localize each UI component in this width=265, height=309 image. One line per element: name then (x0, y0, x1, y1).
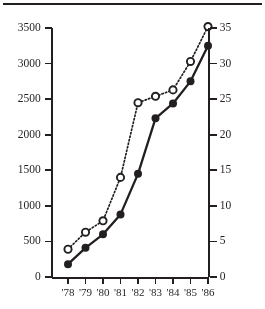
y-axis-left-tick-2000 (45, 134, 52, 136)
y-axis-left-label-3500: 3500 (0, 22, 41, 34)
x-axis-tick-1 (85, 278, 87, 284)
y-axis-right-tick-10 (210, 205, 217, 207)
x-axis-tick-6 (172, 278, 174, 284)
chart-figure: 0500100015002000250030003500051015202530… (0, 0, 265, 309)
plot-canvas (0, 0, 265, 309)
y-axis-right-label-30: 30 (220, 58, 232, 70)
x-axis-tick-2 (102, 278, 104, 284)
y-axis-right-label-0: 0 (220, 271, 226, 283)
x-axis-tick-8 (207, 278, 209, 284)
x-axis-tick-4 (137, 278, 139, 284)
y-axis-right-tick-30 (210, 63, 217, 65)
y-axis-left-tick-3000 (45, 63, 52, 65)
y-axis-right-tick-25 (210, 98, 217, 100)
x-axis-tick-5 (155, 278, 157, 284)
x-axis-line (52, 277, 209, 279)
y-axis-left-label-0: 0 (0, 271, 41, 283)
y-axis-left-tick-1500 (45, 169, 52, 171)
y-axis-left-label-500: 500 (0, 235, 41, 247)
x-axis-tick-7 (190, 278, 192, 284)
x-axis-label-8: '86 (195, 287, 221, 299)
y-axis-right-tick-15 (210, 169, 217, 171)
y-axis-right-label-5: 5 (220, 235, 226, 247)
y-axis-right-label-35: 35 (220, 22, 232, 34)
y-axis-left-label-1500: 1500 (0, 164, 41, 176)
x-axis-tick-0 (67, 278, 69, 284)
y-axis-left-tick-2500 (45, 98, 52, 100)
y-axis-right-tick-35 (210, 27, 217, 29)
y-axis-right-tick-5 (210, 241, 217, 243)
y-axis-right-label-25: 25 (220, 93, 232, 105)
y-axis-left-tick-500 (45, 241, 52, 243)
y-axis-left-label-3000: 3000 (0, 58, 41, 70)
y-axis-left-tick-1000 (45, 205, 52, 207)
y-axis-left-label-2500: 2500 (0, 93, 41, 105)
y-axis-right-tick-0 (210, 276, 217, 278)
y-axis-left-label-1000: 1000 (0, 200, 41, 212)
y-axis-right-tick-20 (210, 134, 217, 136)
y-axis-left-tick-0 (45, 276, 52, 278)
x-axis-tick-3 (120, 278, 122, 284)
y-axis-right-label-20: 20 (220, 129, 232, 141)
y-axis-left-label-2000: 2000 (0, 129, 41, 141)
y-axis-right-label-10: 10 (220, 200, 232, 212)
y-axis-left-tick-3500 (45, 27, 52, 29)
y-axis-right-label-15: 15 (220, 164, 232, 176)
